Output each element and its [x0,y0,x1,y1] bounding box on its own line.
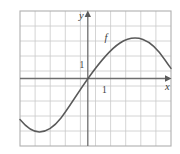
x-unit-label: 1 [102,85,107,95]
y-unit-label: 1 [80,60,85,70]
x-axis-label: x [164,81,170,92]
plot-canvas: y x f 1 1 [0,0,180,154]
y-axis-label: y [78,10,84,21]
function-graph-figure: y x f 1 1 [0,0,180,154]
